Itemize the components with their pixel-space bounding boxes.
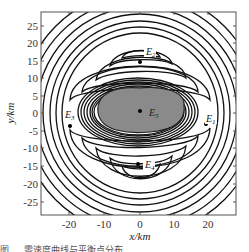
x-tick: 20 [203, 218, 215, 230]
point-e4 [136, 162, 140, 166]
y-tick: 0 [33, 107, 39, 119]
y-tick: 25 [27, 20, 39, 32]
point-e5 [138, 109, 142, 113]
x-tick: -10 [97, 218, 112, 230]
x-tick: 0 [137, 218, 143, 230]
y-tick: -5 [29, 125, 39, 137]
y-tick: 15 [27, 55, 39, 67]
y-tick: -25 [23, 196, 38, 208]
y-tick: 10 [27, 72, 39, 84]
x-tick-labels: -20 -10 0 10 20 [62, 218, 214, 230]
y-tick: -20 [23, 178, 38, 190]
y-tick: -10 [23, 142, 38, 154]
point-e2 [138, 60, 142, 64]
x-axis-label: x/km [129, 230, 151, 242]
x-tick: -20 [62, 218, 77, 230]
figure-caption: 图 … 零速度曲线与平衡点分布 [0, 243, 249, 252]
y-tick-labels: 25 20 15 10 5 0 -5 -10 -15 -20 -25 [23, 20, 38, 208]
contour-chart: E2 E5 E3 E1 E4 -20 -10 0 10 20 x/km [0, 0, 249, 252]
x-tick: 10 [169, 218, 181, 230]
y-tick: 20 [27, 37, 39, 49]
point-e3 [68, 124, 72, 128]
y-tick: -15 [23, 160, 38, 172]
y-axis-label: y/km [4, 103, 16, 125]
y-tick: 5 [33, 90, 39, 102]
